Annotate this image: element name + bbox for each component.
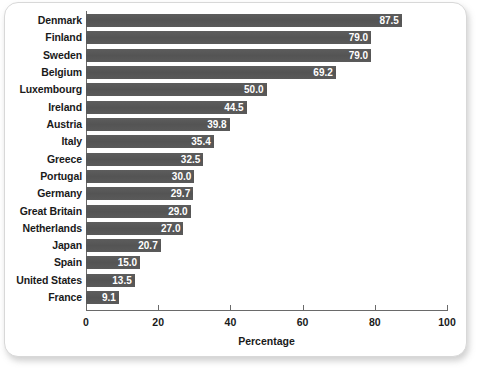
bar-value-label: 32.5 [86,153,203,166]
bar-value-label: 79.0 [86,49,371,62]
category-label: Germany [2,187,82,200]
category-label: Portugal [2,170,82,183]
x-axis-title: Percentage [86,335,447,347]
category-label: Japan [2,239,82,252]
category-label: Denmark [2,14,82,27]
category-label: Austria [2,118,82,131]
category-label: Finland [2,31,82,44]
bar-value-label: 27.0 [86,222,183,235]
x-tick-label: 60 [283,316,323,328]
category-label: Spain [2,256,82,269]
bar-value-label: 69.2 [86,66,336,79]
category-label: Italy [2,135,82,148]
x-tick-label: 40 [210,316,250,328]
bar-value-label: 30.0 [86,170,194,183]
bar-value-label: 44.5 [86,101,247,114]
bar-chart: Denmark87.5Finland79.0Sweden79.0Belgium6… [0,0,479,371]
category-label: Belgium [2,66,82,79]
x-tick-mark [158,305,159,310]
bar-value-label: 20.7 [86,239,161,252]
category-label: Greece [2,153,82,166]
category-label: Netherlands [2,222,82,235]
x-tick-label: 80 [355,316,395,328]
bar-value-label: 13.5 [86,274,135,287]
x-tick-mark [230,305,231,310]
bar-value-label: 79.0 [86,31,371,44]
bar-value-label: 50.0 [86,83,267,96]
category-label: Sweden [2,49,82,62]
bar-value-label: 29.0 [86,205,191,218]
bar-value-label: 15.0 [86,256,140,269]
category-label: France [2,291,82,304]
bar-value-label: 9.1 [86,291,119,304]
x-tick-mark [447,305,448,310]
x-tick-label: 0 [66,316,106,328]
bar-value-label: 39.8 [86,118,230,131]
x-tick-label: 20 [138,316,178,328]
category-label: Ireland [2,101,82,114]
bar-value-label: 35.4 [86,135,214,148]
bar-value-label: 87.5 [86,14,402,27]
x-tick-label: 100 [427,316,467,328]
bar-value-label: 29.7 [86,187,193,200]
x-axis-line [86,310,448,311]
x-tick-mark [303,305,304,310]
category-label: United States [2,274,82,287]
x-tick-mark [375,305,376,310]
category-label: Great Britain [2,205,82,218]
x-tick-mark [86,305,87,310]
category-label: Luxembourg [2,83,82,96]
